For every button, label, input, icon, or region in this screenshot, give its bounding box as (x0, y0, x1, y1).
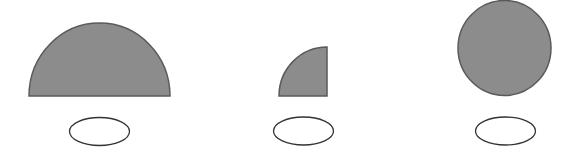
shape-group-quarter-circle (274, 47, 334, 145)
full-circle-shape (458, 1, 551, 96)
answer-oval-1[interactable] (70, 118, 130, 146)
shape-group-semicircle (29, 23, 170, 145)
answer-oval-3[interactable] (476, 117, 536, 145)
semicircle-shape (29, 23, 170, 96)
shape-group-full-circle (458, 1, 551, 146)
fraction-shapes-diagram (0, 0, 578, 159)
diagram-svg (0, 0, 578, 159)
answer-oval-2[interactable] (274, 117, 334, 145)
quarter-circle-shape (279, 47, 327, 96)
